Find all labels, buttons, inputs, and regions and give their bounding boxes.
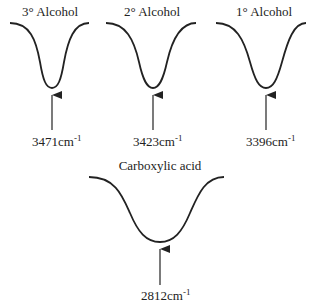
absorption-band-curve [106,23,196,88]
ir-band-diagram: 3° Alcohol 3471cm-1 2° Alcohol 3423cm-1 … [0,0,314,304]
peak-tertiary-alcohol: 3° Alcohol 3471cm-1 [10,4,89,149]
peak-label: 3° Alcohol [22,4,79,19]
peak-secondary-alcohol: 2° Alcohol 3423cm-1 [106,4,196,149]
peak-carboxylic-acid: Carboxylic acid 2812cm-1 [89,158,224,303]
peak-label: Carboxylic acid [119,158,202,173]
absorption-band-curve [216,23,306,88]
peak-label: 2° Alcohol [124,4,181,19]
wavenumber-label: 2812cm-1 [141,287,190,303]
absorption-band-curve [89,177,224,242]
absorption-band-curve [10,23,89,88]
peak-primary-alcohol: 1° Alcohol 3396cm-1 [216,4,306,149]
wavenumber-label: 3471cm-1 [32,133,81,149]
wavenumber-label: 3396cm-1 [246,133,295,149]
wavenumber-label: 3423cm-1 [133,133,182,149]
peak-label: 1° Alcohol [236,4,293,19]
